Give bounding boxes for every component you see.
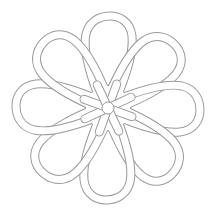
center-knot — [78, 78, 137, 137]
flower-svg — [0, 0, 212, 212]
center-hole — [102, 102, 114, 114]
knot-flower-drawing — [0, 0, 212, 212]
